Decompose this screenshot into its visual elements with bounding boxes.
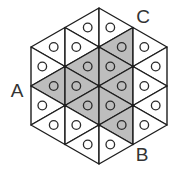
grid-node xyxy=(131,65,134,68)
hexagon-triangle-diagram: A B C xyxy=(0,0,185,179)
label-a: A xyxy=(11,80,24,101)
grid-node xyxy=(63,104,66,107)
grid-node xyxy=(63,65,66,68)
grid-node xyxy=(131,104,134,107)
grid-node xyxy=(97,84,100,87)
label-c: C xyxy=(136,6,150,27)
label-b: B xyxy=(136,144,149,165)
grid-node xyxy=(97,45,100,48)
grid-node xyxy=(97,123,100,126)
